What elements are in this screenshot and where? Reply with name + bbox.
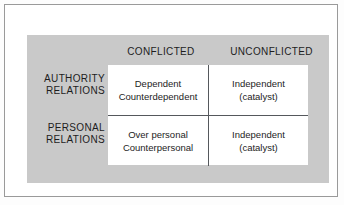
matrix-cell-personal-conflicted-line2: Counterpersonal — [123, 141, 193, 154]
matrix-cell-authority-unconflicted-line1: Independent — [232, 77, 285, 90]
row-label-authority-line1: AUTHORITY — [27, 73, 105, 85]
row-label-personal-line1: PERSONAL — [27, 122, 105, 134]
row-label-personal-line2: RELATIONS — [27, 134, 105, 146]
matrix-gray-panel: CONFLICTED UNCONFLICTED AUTHORITY RELATI… — [27, 35, 329, 183]
row-label-authority-relations: AUTHORITY RELATIONS — [27, 73, 105, 97]
matrix-row-personal: Over personal Counterpersonal Independen… — [108, 115, 308, 166]
matrix-cell-authority-conflicted-line2: Counterdependent — [119, 90, 198, 103]
column-header-unconflicted: UNCONFLICTED — [214, 45, 329, 59]
matrix-cell-personal-conflicted-line1: Over personal — [128, 128, 188, 141]
matrix-row-authority: Dependent Counterdependent Independent (… — [108, 65, 308, 115]
matrix-cell-authority-unconflicted: Independent (catalyst) — [208, 65, 308, 115]
matrix-cell-personal-unconflicted-line2: (catalyst) — [239, 141, 278, 154]
matrix-cell-authority-unconflicted-line2: (catalyst) — [239, 90, 278, 103]
column-header-conflicted: CONFLICTED — [108, 45, 214, 59]
matrix-table: Dependent Counterdependent Independent (… — [108, 65, 308, 165]
matrix-cell-authority-conflicted: Dependent Counterdependent — [108, 65, 208, 115]
row-label-personal-relations: PERSONAL RELATIONS — [27, 122, 105, 146]
matrix-cell-personal-unconflicted-line1: Independent — [232, 128, 285, 141]
matrix-cell-personal-conflicted: Over personal Counterpersonal — [108, 116, 208, 166]
figure-root: CONFLICTED UNCONFLICTED AUTHORITY RELATI… — [0, 0, 344, 205]
figure-outer-frame: CONFLICTED UNCONFLICTED AUTHORITY RELATI… — [4, 4, 338, 197]
row-label-authority-line2: RELATIONS — [27, 85, 105, 97]
matrix-cell-personal-unconflicted: Independent (catalyst) — [208, 116, 308, 166]
matrix-cell-authority-conflicted-line1: Dependent — [135, 77, 181, 90]
